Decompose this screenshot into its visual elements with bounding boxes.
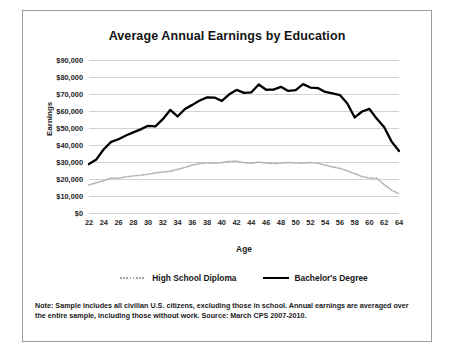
y-tick-label: $10,000 xyxy=(56,192,83,201)
y-tick-label: $50,000 xyxy=(56,124,83,133)
x-tick-label: 52 xyxy=(306,218,314,227)
solid-line-swatch-icon xyxy=(263,277,289,280)
plot-area-wrapper: Earnings $90,000$80,000$70,000$60,000$50… xyxy=(23,11,433,343)
x-tick-label: 28 xyxy=(129,218,137,227)
series-line-high-school-diploma xyxy=(89,161,399,194)
dotted-line-swatch-icon xyxy=(120,277,146,279)
y-tick-label: $70,000 xyxy=(56,90,83,99)
y-tick-label: $90,000 xyxy=(56,56,83,65)
x-tick-label: 32 xyxy=(159,218,167,227)
x-tick-label: 26 xyxy=(114,218,122,227)
y-tick-label: $60,000 xyxy=(56,107,83,116)
plot-area: $90,000$80,000$70,000$60,000$50,000$40,0… xyxy=(89,60,399,213)
y-tick-label: $80,000 xyxy=(56,73,83,82)
legend-label-bachelors-degree: Bachelor's Degree xyxy=(295,273,368,283)
x-axis-title: Age xyxy=(89,244,399,254)
x-tick-label: 54 xyxy=(321,218,329,227)
x-tick-label: 40 xyxy=(218,218,226,227)
x-tick-label: 42 xyxy=(232,218,240,227)
y-tick-label: $30,000 xyxy=(56,158,83,167)
x-tick-label: 60 xyxy=(365,218,373,227)
x-tick-label: 64 xyxy=(395,218,403,227)
series-line-bachelor-s-degree xyxy=(89,84,399,164)
legend-item-high-school-diploma: High School Diploma xyxy=(120,273,236,283)
x-tick-label: 50 xyxy=(292,218,300,227)
chart-legend: High School Diploma Bachelor's Degree xyxy=(89,273,399,283)
y-tick-label: $0 xyxy=(75,209,83,218)
x-tick-label: 30 xyxy=(144,218,152,227)
legend-item-bachelors-degree: Bachelor's Degree xyxy=(263,273,368,283)
chart-note: Note: Sample includes all civilian U.S. … xyxy=(35,301,421,322)
x-tick-label: 22 xyxy=(85,218,93,227)
legend-label-high-school-diploma: High School Diploma xyxy=(152,273,236,283)
x-tick-label: 46 xyxy=(262,218,270,227)
x-tick-label: 58 xyxy=(351,218,359,227)
y-axis-title: Earnings xyxy=(45,102,54,136)
y-tick-label: $40,000 xyxy=(56,141,83,150)
chart-figure: Average Annual Earnings by Education Ear… xyxy=(22,10,432,342)
x-tick-label: 38 xyxy=(203,218,211,227)
x-tick-label: 56 xyxy=(336,218,344,227)
x-tick-label: 36 xyxy=(188,218,196,227)
gridline xyxy=(89,213,399,214)
x-tick-label: 62 xyxy=(380,218,388,227)
x-tick-label: 48 xyxy=(277,218,285,227)
chart-note-line-2: entire sample, including those without w… xyxy=(48,311,307,320)
series-lines xyxy=(89,60,399,213)
x-tick-label: 34 xyxy=(173,218,181,227)
y-tick-label: $20,000 xyxy=(56,175,83,184)
x-tick-label: 44 xyxy=(247,218,255,227)
x-tick-label: 24 xyxy=(100,218,108,227)
